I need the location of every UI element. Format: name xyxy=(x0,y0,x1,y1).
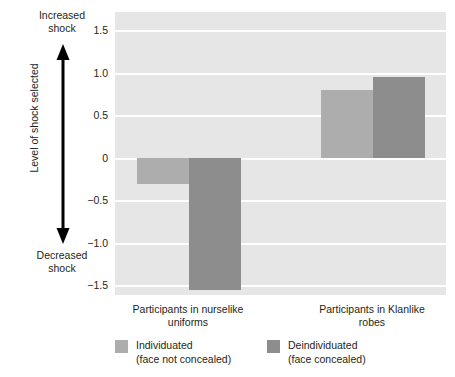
x-axis-group-label-0-line2: uniforms xyxy=(118,316,258,329)
legend-label-deindividuated-line1: Deindividuated xyxy=(288,339,357,351)
y-axis-annotation: Increased shock Decreased shock Level of… xyxy=(0,0,112,300)
x-axis-group-label-1-line1: Participants in Klanlike xyxy=(302,303,442,316)
y-tick-label-1: 1.0 xyxy=(93,67,108,79)
x-axis-group-label-1-line2: robes xyxy=(302,316,442,329)
bar-group1-individuated xyxy=(321,90,373,158)
legend-label-deindividuated: Deindividuated (face concealed) xyxy=(288,339,366,366)
y-tick-label-3: 0 xyxy=(102,152,108,164)
legend-label-individuated: Individuated (face not concealed) xyxy=(136,339,231,366)
y-tick-label-2: 0.5 xyxy=(93,109,108,121)
y-axis-title: Level of shock selected xyxy=(28,38,40,198)
y-tick-label-5: −1.0 xyxy=(87,237,108,249)
legend-swatch-individuated-icon xyxy=(115,340,128,353)
gridline-1.5: 1.5 xyxy=(115,30,446,32)
y-tick-label-6: −1.5 xyxy=(87,279,108,291)
legend-label-individuated-line1: Individuated xyxy=(136,339,193,351)
bar-group0-deindividuated xyxy=(189,158,241,290)
legend-swatch-deindividuated-icon xyxy=(267,340,280,353)
chart-figure: Increased shock Decreased shock Level of… xyxy=(0,0,455,377)
gridline-neg1.0: −1.0 xyxy=(115,243,446,245)
gridline-1.0: 1.0 xyxy=(115,73,446,75)
legend-label-deindividuated-line2: (face concealed) xyxy=(288,353,366,365)
legend-item-deindividuated: Deindividuated (face concealed) xyxy=(267,339,366,366)
legend: Individuated (face not concealed) Deindi… xyxy=(115,339,455,373)
increased-shock-caption-line1: Increased xyxy=(14,9,110,22)
decreased-shock-caption-line1: Decreased xyxy=(14,249,110,262)
gridline-neg1.5: −1.5 xyxy=(115,285,446,287)
y-tick-label-4: −0.5 xyxy=(87,194,108,206)
x-axis-group-label-1: Participants in Klanlike robes xyxy=(302,303,442,329)
decreased-shock-caption: Decreased shock xyxy=(14,249,110,275)
plot-area: 1.5 1.0 0.5 0 −0.5 −1.0 −1.5 xyxy=(115,12,446,295)
bar-group1-deindividuated xyxy=(373,77,425,158)
x-axis-group-label-0-line1: Participants in nurselike xyxy=(118,303,258,316)
decreased-shock-caption-line2: shock xyxy=(14,262,110,275)
legend-label-individuated-line2: (face not concealed) xyxy=(136,353,231,365)
double-headed-arrow-icon xyxy=(56,44,70,244)
legend-item-individuated: Individuated (face not concealed) xyxy=(115,339,231,366)
y-tick-label-0: 1.5 xyxy=(93,24,108,36)
gridline-neg0.5: −0.5 xyxy=(115,200,446,202)
bar-group0-individuated xyxy=(137,158,189,184)
x-axis-group-label-0: Participants in nurselike uniforms xyxy=(118,303,258,329)
